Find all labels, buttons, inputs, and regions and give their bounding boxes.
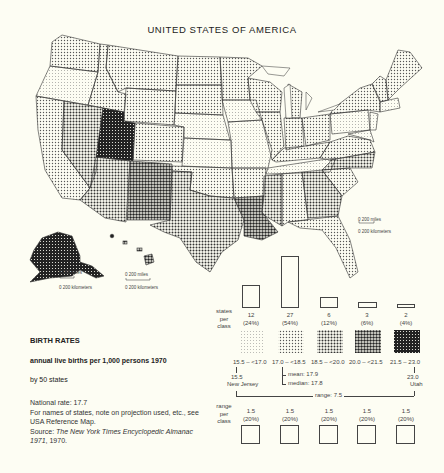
- swatch-class-2: [278, 330, 304, 353]
- swatch-class-1: [239, 330, 265, 353]
- swatch-class-5: [394, 330, 420, 353]
- max-tick: [414, 367, 415, 373]
- range-box-class-5: [396, 425, 415, 444]
- class-4-range: 20.0 – <21.5: [349, 359, 383, 365]
- class-5-range-width: 1.5(20%): [386, 408, 426, 423]
- class-2-range: 17.0 – <18.5: [272, 359, 306, 365]
- range-box-class-3: [319, 425, 338, 444]
- class-5-range: 21.5 – 23.0: [390, 359, 420, 365]
- median-value: median: 17.8: [288, 380, 323, 386]
- class-3-range-width: 1.5(20%): [309, 408, 349, 423]
- min-state: New Jersey: [227, 381, 258, 387]
- max-value: 23.0: [407, 374, 419, 380]
- mean-value: mean: 17.9: [288, 371, 318, 377]
- swatch-class-4: [355, 330, 381, 353]
- swatch-class-3: [317, 330, 343, 353]
- min-tick: [236, 367, 237, 373]
- range-box-class-2: [280, 425, 299, 444]
- range-box-class-1: [241, 425, 260, 444]
- max-state: Utah: [410, 381, 423, 387]
- class-3-range: 18.5 – <20.0: [311, 359, 345, 365]
- range-value: range: 7.5: [313, 392, 344, 398]
- range-box-class-4: [357, 425, 376, 444]
- min-value: 15.5: [231, 374, 243, 380]
- class-1-range-width: 1.5(20%): [231, 408, 271, 423]
- class-4-range-width: 1.5(20%): [347, 408, 387, 423]
- class-2-range-width: 1.5(20%): [270, 408, 310, 423]
- class-1-range: 15.5 – <17.0: [233, 359, 267, 365]
